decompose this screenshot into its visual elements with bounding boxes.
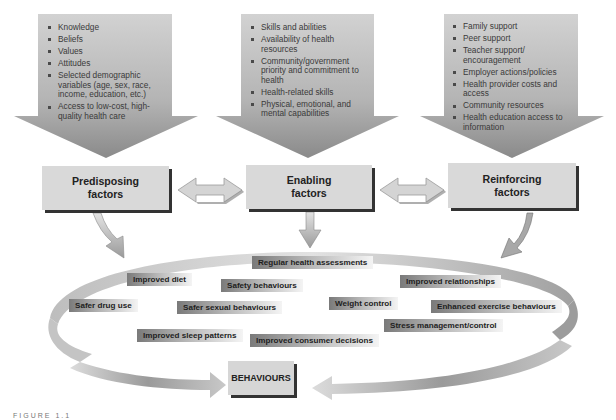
health-behaviour-diagram: Knowledge Beliefs Values Attitudes Selec… xyxy=(0,0,616,420)
box-title: Predisposing xyxy=(72,175,139,188)
list-item: Community resources xyxy=(452,101,574,111)
list-item: Peer support xyxy=(452,34,574,44)
curved-arrow-icon xyxy=(93,213,124,258)
behaviour-tag: Safer sexual behaviours xyxy=(177,301,282,314)
behaviour-tag: Stress management/control xyxy=(384,319,503,332)
behaviour-tag: Improved consumer decisions xyxy=(250,334,379,347)
list-item: Attitudes xyxy=(47,59,167,69)
left-band-arrow-icon xyxy=(70,362,226,398)
enabling-factors-box: Enabling factors xyxy=(246,165,372,209)
box-subtitle: factors xyxy=(483,186,542,199)
box-subtitle: factors xyxy=(72,188,139,201)
list-item: Availability of health resources xyxy=(250,35,372,54)
down-arrow-icon xyxy=(299,212,321,248)
list-item: Physical, emotional, and mental capabili… xyxy=(250,100,372,119)
list-item: Knowledge xyxy=(47,23,167,33)
list-item: Health education access to information xyxy=(452,113,574,132)
right-band-arrow-icon xyxy=(312,340,572,400)
list-item: Beliefs xyxy=(47,35,167,45)
curved-arrow-icon xyxy=(501,213,533,258)
behaviour-tag: Safer drug use xyxy=(69,299,138,312)
behaviour-tag: Improved relationships xyxy=(400,275,501,288)
figure-caption: FIGURE 1.1 xyxy=(13,412,71,419)
box-title: Reinforcing xyxy=(483,173,542,186)
reinforcing-factors-box: Reinforcing factors xyxy=(448,163,576,208)
list-item: Access to low-cost, high-quality health … xyxy=(47,102,167,121)
behaviours-outcome-box: BEHAVIOURS xyxy=(228,361,294,395)
box-subtitle: factors xyxy=(287,187,332,200)
behaviour-tag: Safety behaviours xyxy=(221,279,303,292)
enabling-factor-list: Skills and abilities Availability of hea… xyxy=(250,23,372,121)
list-item: Values xyxy=(47,47,167,57)
list-item: Teacher support/ encouragement xyxy=(452,46,574,65)
list-item: Family support xyxy=(452,22,574,32)
double-arrow-icon xyxy=(178,178,244,204)
outcome-label: BEHAVIOURS xyxy=(231,373,290,383)
behaviour-tag: Regular health assessments xyxy=(252,256,373,269)
list-item: Skills and abilities xyxy=(250,23,372,33)
list-item: Employer actions/policies xyxy=(452,68,574,78)
behaviour-tag: Improved diet xyxy=(127,273,192,286)
behaviour-tag: Improved sleep patterns xyxy=(137,329,243,342)
box-title: Enabling xyxy=(287,174,332,187)
predisposing-factor-list: Knowledge Beliefs Values Attitudes Selec… xyxy=(47,23,167,124)
behaviour-tag: Enhanced exercise behaviours xyxy=(431,300,562,313)
list-item: Community/government priority and commit… xyxy=(250,57,372,86)
behaviour-tag: Weight control xyxy=(329,297,398,310)
list-item: Health provider costs and access xyxy=(452,80,574,99)
predisposing-factors-box: Predisposing factors xyxy=(42,166,169,210)
list-item: Health-related skills xyxy=(250,88,372,98)
list-item: Selected demographic variables (age, sex… xyxy=(47,71,167,100)
reinforcing-factor-list: Family support Peer support Teacher supp… xyxy=(452,22,574,135)
double-arrow-icon xyxy=(380,178,446,204)
